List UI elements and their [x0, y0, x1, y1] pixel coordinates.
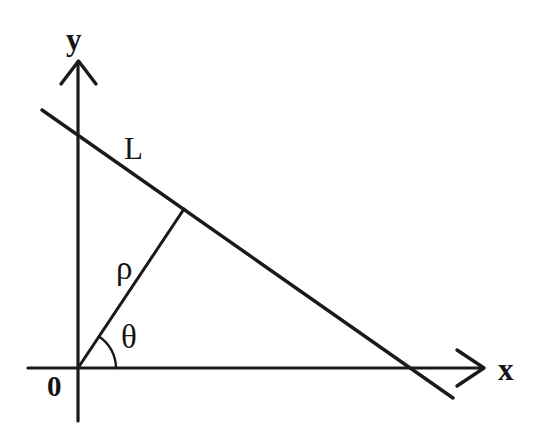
line-L [42, 110, 453, 398]
y-axis-label: y [66, 24, 82, 55]
x-axis-label: x [498, 354, 514, 385]
rho-label: ρ [116, 252, 132, 285]
figure-canvas: y x 0 L ρ θ [0, 0, 534, 428]
line-label-L: L [124, 133, 143, 164]
origin-label: 0 [47, 372, 62, 401]
theta-arc [99, 336, 116, 368]
diagram-svg [0, 0, 534, 428]
theta-label: θ [121, 321, 137, 354]
